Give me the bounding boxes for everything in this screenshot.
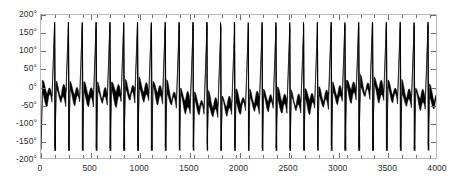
x-tick-major [41,153,42,158]
y-tick-major [41,15,46,16]
x-tick-minor [263,155,264,158]
x-tick-minor [305,15,306,18]
plot-area [40,14,437,159]
x-tick-minor [222,15,223,18]
x-tick-minor [277,155,278,158]
x-tick-major [91,15,92,20]
x-tick-minor [138,155,139,158]
y-tick-major [41,142,46,143]
y-tick-major [41,69,46,70]
x-tick-minor [110,155,111,158]
phase-wrap-spike [207,22,208,151]
x-tick-minor [69,155,70,158]
x-tick-major [140,15,141,20]
x-tick-label: 3000 [328,163,347,173]
x-tick-minor [291,15,292,18]
x-tick-minor [277,15,278,18]
y-tick-major [431,15,436,16]
x-tick-minor [166,155,167,158]
x-tick-minor [361,15,362,18]
y-tick-major [41,33,46,34]
x-tick-minor [347,155,348,158]
y-tick-major [431,69,436,70]
x-tick-minor [180,155,181,158]
x-tick-major [190,153,191,158]
x-tick-minor [152,155,153,158]
x-tick-major [240,153,241,158]
x-tick-minor [263,15,264,18]
x-tick-minor [236,155,237,158]
y-tick-major [431,33,436,34]
x-tick-minor [374,15,375,18]
x-tick-minor [249,155,250,158]
x-tick-minor [402,155,403,158]
x-tick-minor [416,155,417,158]
x-tick-minor [291,155,292,158]
y-tick-label: -100° [16,118,37,128]
x-tick-minor [83,155,84,158]
x-tick-minor [430,15,431,18]
x-tick-minor [236,15,237,18]
x-tick-label: 500 [82,163,96,173]
x-tick-label: 2000 [229,163,248,173]
x-tick-major [240,15,241,20]
y-tick-major [431,88,436,89]
signal-trace [41,15,436,158]
x-tick-major [289,15,290,20]
x-tick-minor [194,155,195,158]
x-tick-minor [222,155,223,158]
signal-noise-band [41,22,436,151]
x-tick-minor [249,15,250,18]
y-tick-label: 50° [24,63,37,73]
x-tick-minor [319,155,320,158]
y-tick-label: 0° [29,82,37,92]
x-tick-minor [138,15,139,18]
y-tick-label: -200° [16,154,37,164]
x-tick-minor [110,15,111,18]
x-tick-minor [152,15,153,18]
x-tick-minor [208,155,209,158]
y-tick-label: -50° [21,100,37,110]
x-tick-minor [388,15,389,18]
x-tick-label: 3500 [378,163,397,173]
x-tick-minor [305,155,306,158]
x-tick-label: 1500 [179,163,198,173]
x-tick-minor [402,15,403,18]
x-tick-label: 4000 [427,163,446,173]
y-tick-major [431,51,436,52]
x-tick-minor [430,155,431,158]
x-tick-label: 0 [38,163,43,173]
x-tick-minor [124,15,125,18]
x-tick-major [190,15,191,20]
x-tick-minor [97,155,98,158]
x-tick-minor [361,155,362,158]
x-tick-minor [83,15,84,18]
y-tick-label: 200° [19,9,37,19]
y-tick-major [431,124,436,125]
y-tick-major [41,106,46,107]
y-tick-label: 150° [19,27,37,37]
x-tick-minor [388,155,389,158]
x-tick-minor [208,15,209,18]
x-tick-minor [347,15,348,18]
x-tick-minor [416,15,417,18]
x-tick-major [339,15,340,20]
y-tick-major [431,106,436,107]
x-tick-major [140,153,141,158]
x-tick-minor [374,155,375,158]
x-tick-minor [333,155,334,158]
y-tick-major [41,124,46,125]
x-tick-major [91,153,92,158]
x-tick-label: 1000 [130,163,149,173]
x-tick-minor [124,155,125,158]
y-tick-major [41,51,46,52]
y-tick-label: 100° [19,45,37,55]
x-tick-minor [194,15,195,18]
x-tick-minor [97,15,98,18]
x-tick-minor [166,15,167,18]
x-tick-major [339,153,340,158]
y-tick-major [431,142,436,143]
x-tick-minor [319,15,320,18]
x-tick-minor [55,155,56,158]
x-tick-minor [69,15,70,18]
